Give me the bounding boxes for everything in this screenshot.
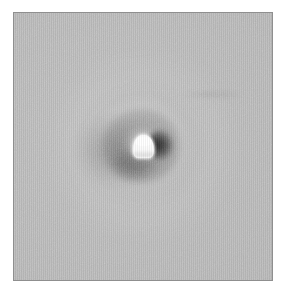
figure-root bbox=[0, 0, 287, 293]
core-base-shading bbox=[134, 150, 153, 157]
faint-streak bbox=[182, 92, 244, 97]
image-panel[interactable] bbox=[13, 12, 273, 281]
